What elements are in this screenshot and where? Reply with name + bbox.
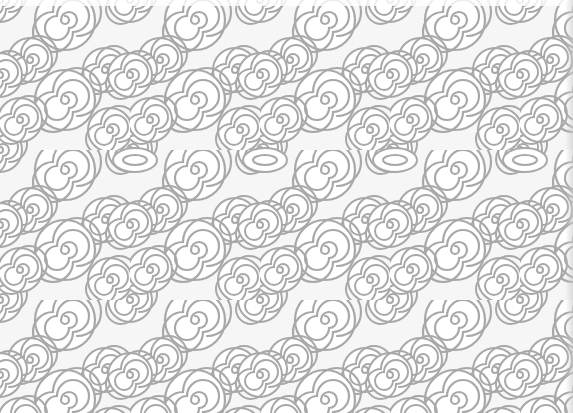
top-edge: [0, 0, 573, 6]
spiral-pattern-canvas: [0, 0, 573, 413]
spiral-pattern-svg: [0, 0, 573, 413]
right-edge-shadow: [565, 0, 573, 413]
pattern-fill: [0, 0, 573, 413]
